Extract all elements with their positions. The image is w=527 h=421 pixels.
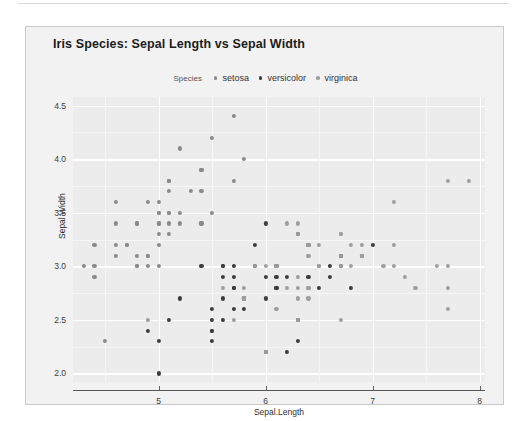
data-point-virginica	[360, 243, 364, 247]
x-axis-tick	[480, 386, 481, 390]
y-axis-tick-label: 3.0	[40, 261, 66, 271]
data-point-setosa	[178, 146, 182, 150]
data-point-virginica	[296, 296, 300, 300]
data-point-versicolor	[146, 328, 150, 332]
legend-entry-versicolor[interactable]: versicolor	[259, 73, 306, 83]
data-point-setosa	[189, 189, 193, 193]
data-point-virginica	[445, 286, 449, 290]
y-axis-tick-label: 2.5	[40, 315, 66, 325]
data-point-virginica	[296, 232, 300, 236]
data-point-virginica	[306, 243, 310, 247]
data-point-virginica	[360, 253, 364, 257]
gridline-major-horizontal	[73, 106, 485, 108]
data-point-setosa	[167, 178, 171, 182]
data-point-setosa	[199, 221, 203, 225]
data-point-virginica	[285, 221, 289, 225]
chart-legend: Species setosa versicolor virginica	[26, 73, 505, 83]
data-point-setosa	[114, 221, 118, 225]
data-point-versicolor	[210, 339, 214, 343]
legend-label-setosa: setosa	[222, 73, 249, 83]
gridline-minor-horizontal	[73, 347, 485, 348]
data-point-virginica	[445, 307, 449, 311]
data-point-versicolor	[296, 339, 300, 343]
gridline-major-vertical	[480, 97, 482, 382]
x-axis-title: Sepal.Length	[73, 407, 485, 417]
gridline-minor-horizontal	[73, 186, 485, 187]
top-divider	[18, 3, 509, 4]
data-point-virginica	[296, 275, 300, 279]
data-point-setosa	[231, 114, 235, 118]
data-point-virginica	[338, 232, 342, 236]
data-point-versicolor	[349, 286, 353, 290]
gridline-major-horizontal	[73, 373, 485, 375]
x-axis-tick-label: 7	[370, 396, 375, 406]
data-point-setosa	[135, 253, 139, 257]
legend-title: Species	[173, 74, 201, 83]
chart-card: Iris Species: Sepal Length vs Sepal Widt…	[25, 26, 504, 405]
data-point-setosa	[231, 178, 235, 182]
data-point-virginica	[403, 275, 407, 279]
data-point-versicolor	[253, 243, 257, 247]
data-point-versicolor	[210, 328, 214, 332]
x-axis-tick	[373, 386, 374, 390]
gridline-minor-vertical	[426, 97, 427, 382]
gridline-minor-horizontal	[73, 240, 485, 241]
legend-entry-virginica[interactable]: virginica	[316, 73, 358, 83]
data-point-versicolor	[231, 275, 235, 279]
data-point-versicolor	[328, 275, 332, 279]
data-point-virginica	[413, 286, 417, 290]
data-point-versicolor	[221, 275, 225, 279]
y-axis-tick-labels: 2.02.53.03.54.04.5	[26, 97, 71, 382]
gridline-major-horizontal	[73, 213, 485, 215]
legend-dot-virginica	[316, 76, 320, 80]
data-point-setosa	[167, 221, 171, 225]
data-point-setosa	[167, 189, 171, 193]
x-axis-tick-label: 5	[156, 396, 161, 406]
data-point-virginica	[242, 296, 246, 300]
data-point-virginica	[317, 243, 321, 247]
data-point-virginica	[338, 253, 342, 257]
data-point-setosa	[114, 253, 118, 257]
data-point-setosa	[178, 221, 182, 225]
plot-panel	[73, 97, 485, 382]
chart-title: Iris Species: Sepal Length vs Sepal Widt…	[53, 37, 305, 51]
data-point-virginica	[221, 286, 225, 290]
x-axis-tick-label: 6	[263, 396, 268, 406]
data-point-versicolor	[306, 275, 310, 279]
data-point-versicolor	[231, 307, 235, 311]
data-point-setosa	[146, 200, 150, 204]
data-point-versicolor	[210, 307, 214, 311]
data-point-virginica	[274, 307, 278, 311]
data-point-versicolor	[285, 275, 289, 279]
y-axis-tick-label: 2.0	[40, 368, 66, 378]
data-point-setosa	[210, 136, 214, 140]
legend-entry-setosa[interactable]: setosa	[214, 73, 249, 83]
y-axis-tick-label: 4.0	[40, 154, 66, 164]
gridline-major-vertical	[266, 97, 268, 382]
data-point-setosa	[103, 339, 107, 343]
gridline-major-vertical	[373, 97, 375, 382]
data-point-setosa	[167, 232, 171, 236]
legend-label-versicolor: versicolor	[267, 73, 306, 83]
data-point-virginica	[296, 221, 300, 225]
data-point-setosa	[114, 243, 118, 247]
gridline-minor-horizontal	[73, 293, 485, 294]
x-axis-tick	[266, 386, 267, 390]
data-point-setosa	[114, 200, 118, 204]
data-point-versicolor	[274, 286, 278, 290]
data-point-versicolor	[178, 296, 182, 300]
data-point-setosa	[92, 243, 96, 247]
data-point-versicolor	[231, 286, 235, 290]
y-axis-title: Sepal Width	[57, 193, 67, 239]
gridline-major-horizontal	[73, 320, 485, 322]
data-point-virginica	[296, 286, 300, 290]
data-point-setosa	[124, 243, 128, 247]
data-point-virginica	[306, 286, 310, 290]
plot-area	[73, 97, 485, 382]
data-point-virginica	[242, 286, 246, 290]
data-point-setosa	[199, 168, 203, 172]
data-point-versicolor	[317, 286, 321, 290]
legend-dot-setosa	[214, 76, 218, 80]
data-point-virginica	[392, 243, 396, 247]
data-point-versicolor	[285, 350, 289, 354]
